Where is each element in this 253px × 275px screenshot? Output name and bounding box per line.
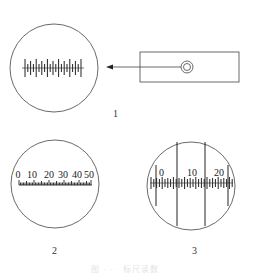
scale-label-20: 20 (214, 167, 224, 178)
figure-caption: 图 · · · 标尺读数 (60, 263, 190, 274)
scale-label-0: 0 (159, 167, 164, 178)
scale-label-30: 30 (58, 169, 68, 180)
panel-3-scale (150, 177, 233, 189)
panel-2-scale (19, 180, 92, 185)
panel-label-3: 3 (192, 245, 197, 256)
scale-label-20: 20 (44, 169, 54, 180)
scale-label-10: 10 (27, 169, 37, 180)
scale-label-40: 40 (72, 169, 82, 180)
hairlines (156, 142, 228, 226)
scale-label-50: 50 (84, 169, 94, 180)
panel-3-reticle: 0 10 20 (147, 142, 235, 230)
arrow-icon (106, 65, 181, 70)
panel-2-reticle: 0 10 20 30 40 50 (11, 140, 99, 228)
panel-1-eyepiece (10, 24, 98, 112)
panel-1-scale (22, 59, 84, 77)
panel-label-1: 1 (113, 108, 118, 119)
scale-label-0: 0 (16, 169, 21, 180)
diagram-canvas: 0 10 20 30 40 50 (0, 0, 253, 275)
scale-label-10: 10 (187, 167, 197, 178)
panel-label-2: 2 (52, 245, 57, 256)
